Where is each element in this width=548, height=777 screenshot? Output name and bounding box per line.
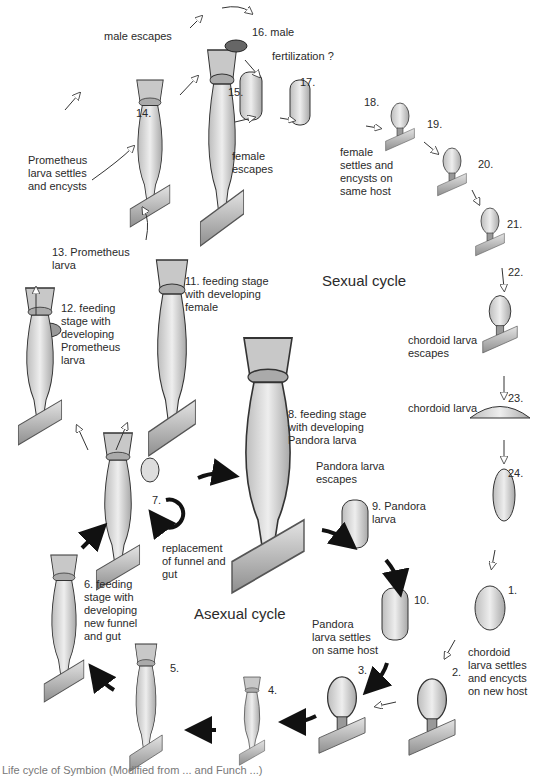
label-stage-14: 14. <box>136 107 151 120</box>
label-chordoid-escapes: chordoid larva escapes <box>408 334 477 360</box>
stage-16-male <box>225 40 247 52</box>
stage-10 <box>382 588 408 640</box>
label-pandora-escapes: Pandora larva escapes <box>316 460 385 486</box>
label-stage-6: 6. feeding stage with developing new fun… <box>84 578 137 643</box>
label-stage-22: 22. <box>508 266 523 279</box>
stage-6-organism <box>44 555 84 702</box>
label-replacement: replacement of funnel and gut <box>162 542 226 581</box>
label-stage-23: 23. <box>508 392 523 405</box>
label-stage-1: 1. <box>508 584 517 597</box>
stage-23-chordoid-larva <box>470 407 530 419</box>
label-chordoid-larva: chordoid larva <box>408 402 477 415</box>
stage-7-organism <box>96 433 159 590</box>
label-female-settles: female settles and encysts on same host <box>340 146 393 198</box>
label-stage-3: 3. <box>358 664 367 677</box>
life-cycle-diagram <box>0 0 548 777</box>
stage-19 <box>386 103 415 151</box>
stage-8-organism <box>232 338 304 593</box>
stage-12-organism <box>18 288 61 445</box>
stage-3-organism <box>319 677 365 753</box>
label-asexual-cycle: Asexual cycle <box>194 605 286 622</box>
label-stage-19: 19. <box>427 118 442 131</box>
stage-20 <box>438 148 467 196</box>
label-stage-9: 9. Pandora larva <box>372 500 426 526</box>
label-stage-7: 7. <box>152 494 161 507</box>
label-stage-2: 2. <box>452 666 461 679</box>
label-stage-20: 20. <box>478 158 493 171</box>
label-stage-15: 15. <box>228 86 243 99</box>
label-stage-16: 16. male <box>252 26 294 39</box>
stage-1-organism <box>475 586 505 630</box>
label-pandora-settles: Pandora larva settles on same host <box>312 618 378 657</box>
label-stage-13: 13. Prometheus larva <box>52 246 130 272</box>
label-stage-21: 21. <box>507 218 522 231</box>
label-stage-8: 8. feeding stage with developing Pandora… <box>288 408 366 447</box>
label-stage-24: 24. <box>508 467 523 480</box>
stage-2-organism <box>409 679 455 755</box>
label-chordoid-settles: chordoid larva settles and encycts on ne… <box>468 646 527 698</box>
stage-15-organism <box>200 50 243 246</box>
label-stage-12: 12. feeding stage with developing Promet… <box>61 302 120 367</box>
label-stage-4: 4. <box>268 684 277 697</box>
label-prometheus-settles: Prometheus larva settles and encysts <box>28 154 87 193</box>
label-sexual-cycle: Sexual cycle <box>322 272 406 289</box>
figure-caption: Life cycle of Symbion (Modified from ...… <box>2 764 262 776</box>
stage-22 <box>483 296 518 353</box>
label-male-escapes: male escapes <box>104 30 172 43</box>
label-fertilization: fertilization ? <box>272 50 334 63</box>
label-stage-18: 18. <box>364 96 379 109</box>
label-stage-11: 11. feeding stage with developing female <box>185 275 269 314</box>
label-stage-17: 17. <box>300 76 315 89</box>
stage-14-organism <box>130 80 170 227</box>
label-stage-10: 10. <box>414 594 429 607</box>
label-female-escapes: female escapes <box>232 150 273 176</box>
stage-21 <box>476 208 505 256</box>
stage-9-pandora-larva <box>342 500 368 548</box>
stage-5-organism <box>130 644 162 771</box>
stage-17-female <box>240 72 262 120</box>
label-stage-5: 5. <box>170 662 179 675</box>
stage-4-organism <box>239 677 264 765</box>
